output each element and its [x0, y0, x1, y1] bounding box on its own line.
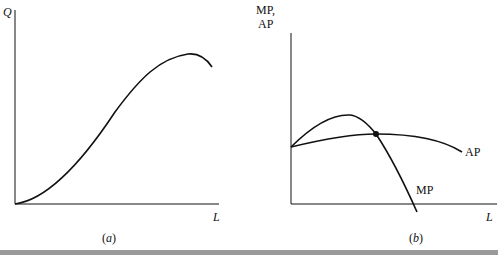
panel-a-axes: [15, 10, 219, 204]
mp-curve: [291, 115, 417, 212]
y-axis-label-b-line1: MP,: [256, 4, 275, 16]
footer-bar: [0, 250, 498, 255]
y-axis-label-a: Q: [3, 6, 12, 18]
mp-curve-label: MP: [416, 184, 433, 196]
y-axis-label-b-line2: AP: [258, 18, 273, 30]
panel-b-axes: [291, 33, 497, 204]
caption-b: (b): [409, 232, 423, 244]
caption-a: (a): [102, 232, 116, 244]
chart-canvas: [0, 0, 498, 255]
intersection-point: [373, 131, 379, 137]
figure: Q L (a) MP, AP L AP MP (b): [0, 0, 498, 255]
total-product-curve: [15, 54, 212, 204]
ap-curve-label: AP: [465, 146, 480, 158]
x-axis-label-a: L: [213, 211, 220, 223]
x-axis-label-b: L: [486, 211, 493, 223]
